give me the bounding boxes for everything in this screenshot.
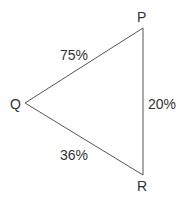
edge-label-qp: 75% [60, 48, 88, 62]
edge-label-pr: 20% [148, 97, 176, 111]
edge-label-qr: 36% [60, 148, 88, 162]
vertex-label-q: Q [10, 97, 21, 111]
edge-q-r [25, 103, 143, 175]
edge-q-p [25, 28, 143, 103]
vertex-label-p: P [137, 10, 146, 24]
vertex-label-r: R [137, 179, 147, 193]
